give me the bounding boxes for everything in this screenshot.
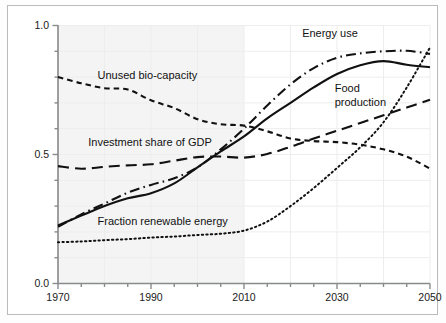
line-chart: 0.00.51.019701990201020302050 Unused bio… xyxy=(0,0,446,323)
y-tick-label: 1.0 xyxy=(34,19,49,31)
x-tick-label: 2050 xyxy=(418,291,442,303)
x-tick-label: 1990 xyxy=(139,291,163,303)
chart-plot-area: 0.00.51.019701990201020302050 Unused bio… xyxy=(0,0,446,323)
x-tick-label: 2010 xyxy=(232,291,256,303)
y-tick-label: 0.5 xyxy=(34,148,49,160)
figure-background: 0.00.51.019701990201020302050 Unused bio… xyxy=(0,0,446,323)
annotation-energy-use: Energy use xyxy=(302,27,358,39)
annotation-unused-biocapacity: Unused bio-capacity xyxy=(98,69,198,81)
annotation-food-production-line1: Food xyxy=(335,82,360,94)
x-tick-label: 2030 xyxy=(325,291,349,303)
y-tick-label: 0.0 xyxy=(34,277,49,289)
x-tick-label: 1970 xyxy=(46,291,70,303)
annotation-fraction-renewable: Fraction renewable energy xyxy=(98,215,229,227)
annotation-food-production-line2: production xyxy=(335,96,386,108)
annotation-investment-share: Investment share of GDP xyxy=(88,136,212,148)
